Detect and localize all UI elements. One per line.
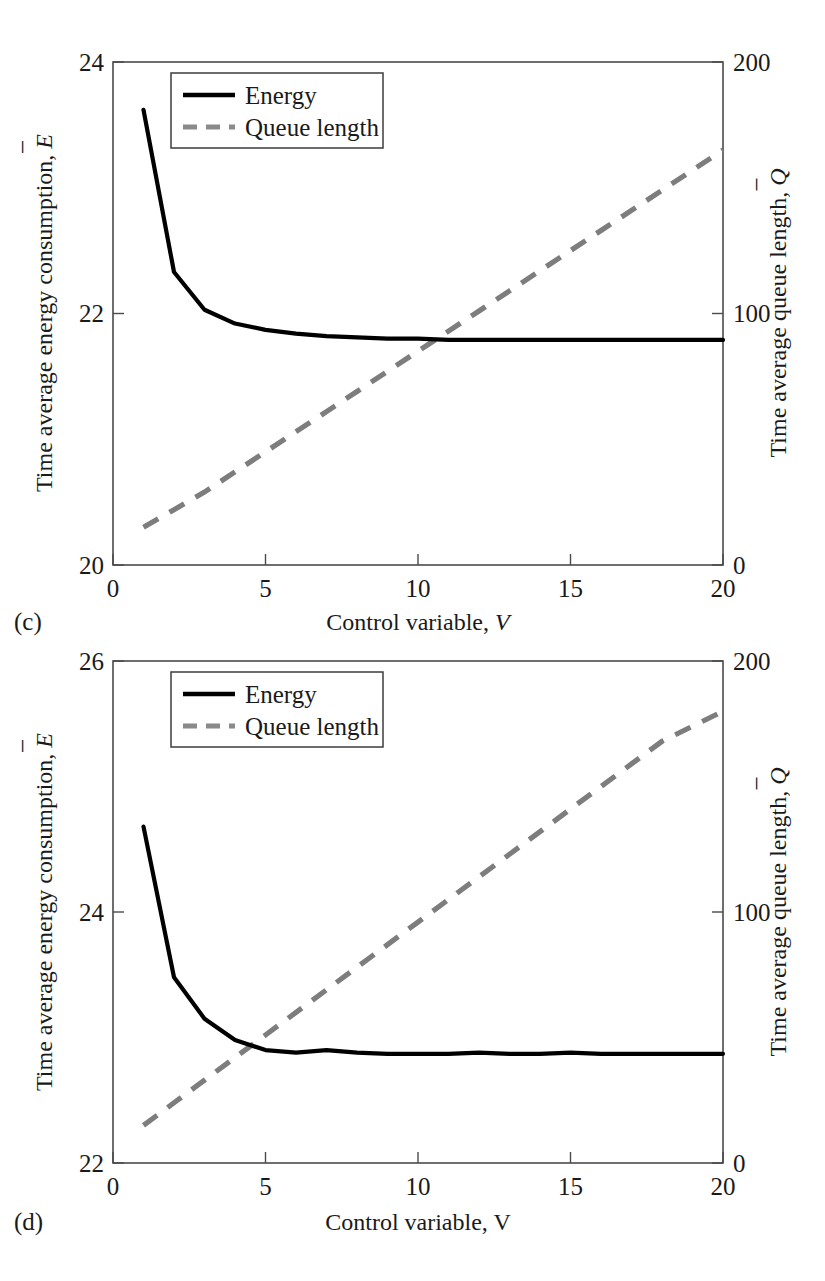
y-axis-right-ticks-d xyxy=(712,661,723,1163)
y-axis-title-right-text-c: Time average queue length, xyxy=(765,192,791,458)
y-tick-right-2-c: 200 xyxy=(733,49,771,76)
y-axis-left-ticks-c xyxy=(113,62,124,565)
y-axis-title-left-text-d: Time average energy consumption, xyxy=(31,754,57,1091)
legend-label-energy-c: Energy xyxy=(245,82,317,109)
legend-label-queue-d: Queue length xyxy=(245,713,379,740)
series-queue-length-d xyxy=(144,711,724,1125)
x-tick-2-c: 10 xyxy=(406,575,431,602)
legend-c: Energy Queue length xyxy=(171,73,383,148)
x-axis-title-symbol-d: V xyxy=(493,1209,511,1235)
x-tick-4-c: 20 xyxy=(711,575,736,602)
x-tick-2-d: 10 xyxy=(406,1173,431,1200)
y-axis-title-left-symbol-d: E xyxy=(31,733,57,749)
x-tick-3-d: 15 xyxy=(558,1173,583,1200)
y-axis-title-left-d: Time average energy consumption, E̅ xyxy=(21,733,57,1091)
x-axis-ticks-c xyxy=(113,554,723,565)
y-axis-title-right-text-d: Time average queue length, xyxy=(765,791,791,1057)
series-energy-d xyxy=(144,827,724,1054)
y-tick-left-0-d: 22 xyxy=(79,1150,104,1177)
y-axis-title-left-text-c: Time average energy consumption, xyxy=(31,155,57,492)
x-axis-title-text-d: Control variable, xyxy=(325,1209,488,1235)
x-axis-title-c: Control variable, V xyxy=(326,609,512,635)
x-axis-title-text-c: Control variable, xyxy=(326,609,489,635)
y-tick-left-1-d: 24 xyxy=(79,899,105,926)
y-tick-left-0-c: 20 xyxy=(79,552,104,579)
x-tick-4-d: 20 xyxy=(711,1173,736,1200)
y-tick-right-2-d: 200 xyxy=(733,648,771,675)
panel-letter-d: (d) xyxy=(14,1208,43,1236)
svg-text:Time average energy consumptio: Time average energy consumption, E̅ xyxy=(21,134,57,492)
legend-label-energy-d: Energy xyxy=(245,681,317,708)
x-tick-0-c: 0 xyxy=(107,575,120,602)
y-axis-title-right-symbol-d: Q xyxy=(765,767,791,784)
y-tick-left-1-c: 22 xyxy=(79,300,104,327)
x-tick-1-c: 5 xyxy=(259,575,272,602)
x-tick-3-c: 15 xyxy=(558,575,583,602)
y-axis-right-ticks-c xyxy=(712,62,723,565)
x-axis-title-symbol-c: V xyxy=(495,609,512,635)
y-axis-title-left-symbol-c: E xyxy=(31,134,57,150)
y-axis-left-ticks-d xyxy=(113,661,124,1163)
chart-svg-c: 20 22 24 0 100 200 0 5 10 15 xyxy=(0,0,825,640)
x-axis-title-d: Control variable, V xyxy=(325,1209,511,1235)
legend-d: Energy Queue length xyxy=(171,672,383,747)
chart-panel-d: 22 24 26 0 100 200 0 5 10 15 xyxy=(0,640,825,1281)
figure-page: 20 22 24 0 100 200 0 5 10 15 xyxy=(0,0,825,1281)
chart-svg-d: 22 24 26 0 100 200 0 5 10 15 xyxy=(0,640,825,1281)
y-tick-left-2-d: 26 xyxy=(79,648,104,675)
panel-letter-c: (c) xyxy=(14,608,42,636)
x-tick-1-d: 5 xyxy=(259,1173,272,1200)
y-axis-title-left-c: Time average energy consumption, E̅ xyxy=(21,134,57,492)
y-axis-title-right-symbol-c: Q xyxy=(765,168,791,185)
y-tick-left-2-c: 24 xyxy=(79,49,105,76)
legend-label-queue-c: Queue length xyxy=(245,114,379,141)
svg-text:Time average energy consumptio: Time average energy consumption, E̅ xyxy=(21,733,57,1091)
chart-panel-c: 20 22 24 0 100 200 0 5 10 15 xyxy=(0,0,825,640)
x-axis-ticks-d xyxy=(113,1152,723,1163)
x-tick-0-d: 0 xyxy=(107,1173,120,1200)
